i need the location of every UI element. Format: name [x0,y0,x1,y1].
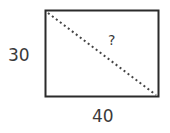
rectangle-diagram [0,0,170,133]
rectangle-outline [46,11,159,97]
height-label: 30 [8,47,30,64]
dotted-diagonal [48,13,156,95]
width-label: 40 [92,108,114,125]
diagonal-question-label: ? [108,33,115,47]
